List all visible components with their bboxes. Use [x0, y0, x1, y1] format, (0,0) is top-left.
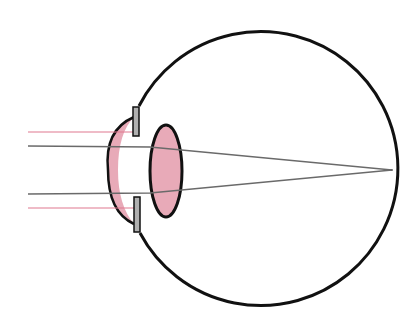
iris-bottom — [134, 197, 140, 232]
eye-diagram — [0, 0, 418, 327]
focal-point — [391, 169, 393, 171]
central-ray-bottom — [28, 170, 392, 194]
lens — [150, 125, 182, 217]
central-ray-top — [28, 146, 392, 170]
iris-top — [133, 107, 139, 136]
